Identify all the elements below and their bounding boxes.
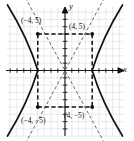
point-4-5 bbox=[90, 32, 94, 36]
hyperbola-figure: (−4, 5) (4, 5) (−4, −5) (4, −5) y x bbox=[0, 0, 134, 141]
point-minus4-5 bbox=[36, 32, 40, 36]
point-4-minus5 bbox=[90, 105, 94, 109]
point-label-4-minus5: (4, −5) bbox=[64, 112, 84, 119]
point-minus4-minus5 bbox=[36, 105, 40, 109]
point-label-minus4-minus5: (−4, −5) bbox=[21, 117, 45, 124]
x-axis-label: x bbox=[123, 65, 127, 74]
point-label-minus4-5: (−4, 5) bbox=[21, 17, 41, 24]
point-label-4-5: (4, 5) bbox=[69, 23, 85, 30]
y-axis-label: y bbox=[69, 2, 73, 11]
